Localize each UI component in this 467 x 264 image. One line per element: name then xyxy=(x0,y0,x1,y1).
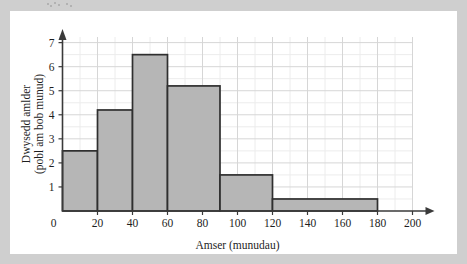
y-axis-title-line1: Dwysedd amlder xyxy=(20,85,33,163)
y-tick-label: 5 xyxy=(49,85,55,97)
x-tick-label: 180 xyxy=(369,217,387,229)
x-tick-label: 20 xyxy=(92,217,104,229)
histogram-bar xyxy=(273,199,378,211)
x-axis-title: Amser (munudau) xyxy=(196,239,280,252)
y-tick-label: 2 xyxy=(49,157,55,169)
y-axis-arrowhead xyxy=(59,29,67,40)
x-tick-label: 120 xyxy=(264,217,282,229)
y-tick-label: 6 xyxy=(49,61,55,73)
x-tick-label: 100 xyxy=(229,217,247,229)
histogram-bar xyxy=(63,151,98,211)
histogram-bar xyxy=(220,175,273,211)
x-tick-label: 160 xyxy=(334,217,352,229)
y-tick-labels: 1234567 xyxy=(49,37,55,193)
y-tick-label: 1 xyxy=(49,181,55,193)
x-axis-arrowhead xyxy=(426,207,435,215)
histogram-svg: 020406080100120140160180200 1234567 Amse… xyxy=(10,11,457,254)
y-tick-label: 3 xyxy=(49,133,55,145)
histogram-bar xyxy=(133,55,168,211)
chart-panel: 020406080100120140160180200 1234567 Amse… xyxy=(10,11,457,254)
y-axis-title-line2: (pobl am bob munud) xyxy=(33,74,46,174)
x-tick-label: 60 xyxy=(162,217,174,229)
x-tick-labels: 020406080100120140160180200 xyxy=(51,217,422,229)
x-tick-label: 40 xyxy=(127,217,139,229)
histogram-plot: 020406080100120140160180200 1234567 Amse… xyxy=(10,11,457,254)
histogram-bar xyxy=(98,110,133,211)
scan-noise-strip xyxy=(0,0,467,11)
x-tick-label: 140 xyxy=(299,217,317,229)
histogram-bar xyxy=(168,86,221,211)
y-tick-label: 7 xyxy=(49,37,55,49)
x-tick-label: 200 xyxy=(404,217,422,229)
page-root: 020406080100120140160180200 1234567 Amse… xyxy=(0,0,467,264)
x-tick-label: 80 xyxy=(197,217,209,229)
x-tick-label: 0 xyxy=(51,217,57,229)
y-tick-label: 4 xyxy=(49,109,55,121)
